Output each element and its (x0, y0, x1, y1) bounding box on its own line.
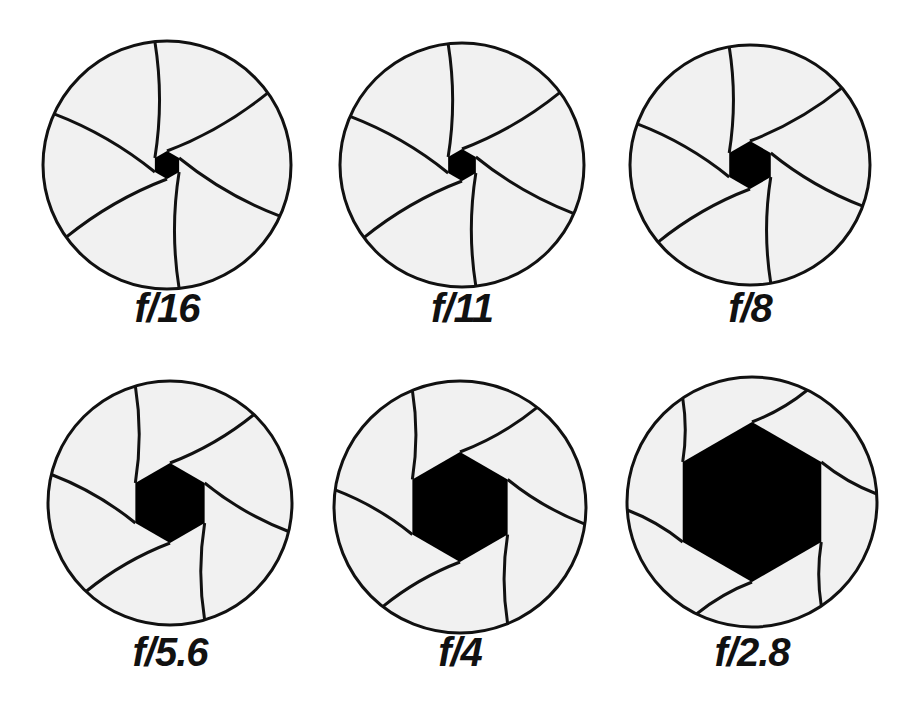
aperture-iris-3 (44, 377, 296, 629)
f-stop-label: f/2.8 (714, 632, 789, 672)
aperture-iris-1 (336, 39, 588, 291)
aperture-iris-5 (623, 373, 881, 631)
aperture-diagram: f/16f/11f/8f/5.6f/4f/2.8 (0, 0, 913, 701)
aperture-iris-2 (626, 41, 874, 289)
f-stop-label: f/4 (438, 632, 482, 672)
aperture-iris-4 (330, 377, 590, 637)
f-stop-label: f/5.6 (132, 632, 207, 672)
f-stop-label: f/16 (135, 288, 200, 328)
f-stop-label: f/8 (728, 288, 772, 328)
aperture-iris-0 (39, 37, 295, 293)
f-stop-label: f/11 (431, 288, 493, 328)
